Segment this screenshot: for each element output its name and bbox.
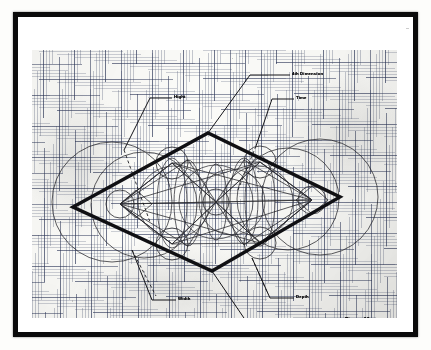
scan-edge-mark xyxy=(406,28,409,29)
frame-inner-mat: Hight 4th Dimension Time Width Depth 5th… xyxy=(18,17,413,332)
label-4th-dimension: 4th Dimension xyxy=(292,72,323,76)
leader-dim5 xyxy=(212,271,284,318)
label-depth: Depth xyxy=(296,295,309,299)
leader-depth xyxy=(252,258,294,298)
scan-speck xyxy=(72,300,73,302)
leader-line-group xyxy=(124,75,294,318)
scan-speck xyxy=(232,58,233,59)
image-frame: Hight 4th Dimension Time Width Depth 5th… xyxy=(13,12,418,337)
screenshot-root: Hight 4th Dimension Time Width Depth 5th… xyxy=(0,0,431,350)
leader-dim4 xyxy=(208,75,290,133)
geometry-drawing xyxy=(32,50,397,318)
graph-paper: Hight 4th Dimension Time Width Depth 5th… xyxy=(32,50,397,318)
label-width: Width xyxy=(178,297,191,301)
label-time: Time xyxy=(296,96,306,100)
big-circle-right-outer xyxy=(262,139,378,255)
label-hight: Hight xyxy=(174,95,186,99)
leader-hight xyxy=(124,98,172,150)
figure-caption: Figure 16 xyxy=(345,316,370,318)
leader-time xyxy=(256,99,294,146)
scan-speck xyxy=(350,64,352,65)
